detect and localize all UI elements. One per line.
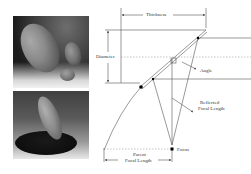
reflected-ray-right	[172, 38, 198, 145]
upper-reflection-point	[197, 37, 199, 39]
reflected-focal-length-label-2: Focal Length	[198, 106, 225, 112]
mirror-surface-outer	[140, 30, 206, 87]
parent-parabola-curve	[104, 87, 141, 150]
focus-point	[171, 148, 174, 151]
lower-reflection-point	[152, 78, 154, 80]
reflected-focal-pointer	[172, 98, 193, 112]
mirror-edge-point	[139, 85, 143, 89]
parent-focal-length-label-2: Focal Length	[125, 158, 152, 164]
thickness-label: Thickness	[146, 12, 166, 18]
dark-base	[15, 131, 77, 155]
focus-label: Focus	[177, 147, 189, 153]
angle-pointer	[182, 62, 196, 69]
angle-label: Angle	[200, 68, 212, 74]
diameter-label: Diameter	[96, 54, 115, 60]
reflected-ray-left	[153, 79, 172, 145]
small-ellipsoid-mirror	[60, 69, 75, 81]
